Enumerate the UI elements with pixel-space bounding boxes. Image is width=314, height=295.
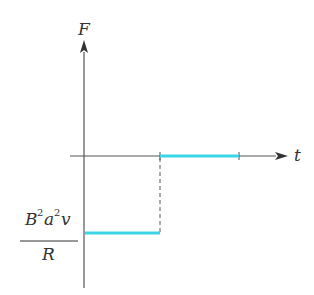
y-axis-label: F xyxy=(77,19,91,39)
numerator-B: B xyxy=(24,209,38,229)
step-function-diagram: F t B 2 a 2 v R xyxy=(0,0,314,295)
numerator-exp-2: 2 xyxy=(54,207,60,218)
y-axis-arrow-icon xyxy=(80,40,88,53)
x-axis-arrow-icon xyxy=(275,152,288,160)
numerator-a: a xyxy=(44,209,54,229)
numerator-v: v xyxy=(61,209,71,229)
x-axis-label: t xyxy=(294,145,301,165)
value-label: B 2 a 2 v R xyxy=(20,207,78,264)
numerator-exp-1: 2 xyxy=(37,207,43,218)
denominator-R: R xyxy=(41,244,55,264)
